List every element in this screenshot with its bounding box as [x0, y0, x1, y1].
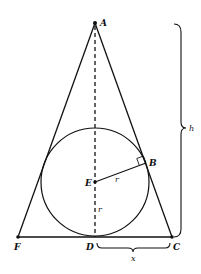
- radius-eb: [95, 163, 146, 182]
- triangle-incircle-diagram: A B C D E F r r h x: [0, 0, 201, 274]
- point-f: [16, 235, 20, 239]
- side-af: [18, 23, 95, 237]
- label-radius-eb: r: [115, 175, 120, 184]
- half-base-brace: [97, 243, 170, 252]
- label-height: h: [189, 124, 194, 133]
- label-d: D: [85, 242, 94, 252]
- height-brace: [174, 24, 186, 237]
- point-c: [170, 235, 174, 239]
- point-e: [93, 180, 97, 184]
- label-half-base: x: [131, 254, 136, 263]
- label-a: A: [99, 18, 107, 28]
- label-radius-ed: r: [98, 205, 103, 214]
- point-a: [93, 21, 97, 25]
- label-b: B: [148, 158, 157, 168]
- side-ac: [95, 23, 172, 237]
- label-e: E: [84, 178, 92, 188]
- label-f: F: [13, 242, 21, 252]
- label-c: C: [173, 242, 181, 252]
